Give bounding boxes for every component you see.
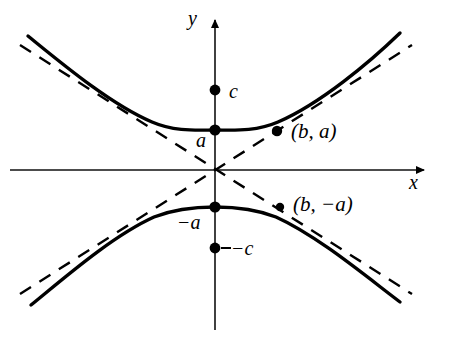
vertex-lower-point	[209, 201, 220, 212]
focus-lower-point	[210, 243, 221, 254]
label-point-upper: (b, a)	[291, 121, 337, 142]
vertex-upper-point	[209, 124, 220, 135]
label-neg-a: −a	[177, 212, 201, 232]
label-a: a	[196, 130, 206, 150]
focus-upper-point	[210, 85, 221, 96]
asymptote-point-lower-dot	[276, 203, 284, 211]
label-point-lower: (b, −a)	[293, 194, 353, 215]
y-axis-label: y	[188, 8, 197, 28]
label-c: c	[229, 81, 238, 101]
asymptote-point-upper-dot	[272, 126, 282, 136]
label-neg-c: −c	[231, 238, 253, 258]
hyperbola-plot	[0, 0, 452, 337]
hyperbola-upper-branch	[28, 33, 400, 130]
x-axis-label: x	[409, 172, 418, 192]
hyperbola-figure: y x c a −a −c (b, a) (b, −a)	[0, 0, 452, 337]
